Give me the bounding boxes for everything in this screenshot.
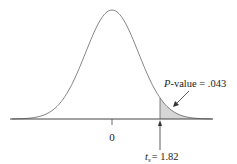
p-value-pointer bbox=[176, 91, 189, 104]
zero-tick-label: 0 bbox=[109, 131, 115, 143]
density-curve bbox=[12, 10, 212, 119]
t-distribution-chart: 0 ts= 1.82 P-value = .043 bbox=[0, 0, 237, 164]
p-value-label: P-value = .043 bbox=[163, 78, 226, 89]
p-value-shaded-region bbox=[160, 98, 212, 119]
test-statistic-label: ts= 1.82 bbox=[145, 151, 179, 164]
arrowhead-icon bbox=[158, 120, 162, 126]
